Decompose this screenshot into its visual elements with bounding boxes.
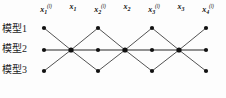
hat-accent: ˆ bbox=[124, 0, 126, 5]
node-mid-1[interactable] bbox=[42, 48, 46, 52]
node-top-1[interactable] bbox=[42, 26, 46, 30]
lattice-graph-svg bbox=[0, 0, 226, 98]
edge-top3-mid6 bbox=[152, 28, 179, 50]
col-label-x2-superscript: x2(l) bbox=[94, 2, 105, 17]
hat-accent: ˆ bbox=[70, 0, 72, 5]
col-label-sub: 1 bbox=[44, 9, 47, 15]
edge-mid6-top4 bbox=[179, 28, 206, 50]
edge-bottom3-mid6 bbox=[152, 50, 179, 71]
edge-top2-mid4 bbox=[98, 28, 125, 50]
col-label-base: ˆx bbox=[178, 2, 182, 11]
edge-top1-mid2 bbox=[44, 28, 71, 50]
node-top-4[interactable] bbox=[204, 26, 208, 30]
col-label-sub: 2 bbox=[98, 9, 101, 15]
node-bottom-2[interactable] bbox=[96, 69, 100, 73]
edge-mid2-bottom2 bbox=[71, 50, 98, 71]
col-label-sup: (l) bbox=[155, 3, 160, 9]
col-label-sub: 1 bbox=[74, 6, 77, 12]
col-label-sup: (l) bbox=[47, 3, 52, 9]
col-label-sub: 3 bbox=[182, 6, 185, 12]
col-label-base: ˆx bbox=[124, 2, 128, 11]
edge-mid6-bottom4 bbox=[179, 50, 206, 71]
node-mid-3[interactable] bbox=[96, 48, 100, 52]
node-mid-2[interactable] bbox=[68, 47, 73, 52]
edge-bottom2-mid4 bbox=[98, 50, 125, 71]
row-label-model-3: 模型3 bbox=[2, 65, 27, 75]
col-label-sub: 4 bbox=[206, 9, 209, 15]
node-bottom-3[interactable] bbox=[150, 69, 154, 73]
col-label-x3-superscript: x3(l) bbox=[148, 2, 159, 17]
col-label-sub: 3 bbox=[152, 9, 155, 15]
node-mid-4[interactable] bbox=[122, 47, 127, 52]
node-mid-6[interactable] bbox=[176, 47, 181, 52]
node-mid-5[interactable] bbox=[150, 48, 154, 52]
node-bottom-1[interactable] bbox=[42, 69, 46, 73]
col-label-base: x bbox=[202, 5, 206, 14]
node-mid-7[interactable] bbox=[204, 48, 208, 52]
col-label-x2-hat: ˆx2 bbox=[124, 2, 131, 14]
node-top-3[interactable] bbox=[150, 26, 154, 30]
row-label-model-1: 模型1 bbox=[2, 24, 27, 34]
node-bottom-4[interactable] bbox=[204, 69, 208, 73]
col-label-base: x bbox=[94, 5, 98, 14]
row-label-model-2: 模型2 bbox=[2, 44, 27, 54]
edge-mid4-bottom3 bbox=[125, 50, 152, 71]
col-label-x3-hat: ˆx3 bbox=[178, 2, 185, 14]
col-label-x1-hat: ˆx1 bbox=[70, 2, 77, 14]
col-label-base: x bbox=[40, 5, 44, 14]
edge-mid4-top3 bbox=[125, 28, 152, 50]
col-label-sup: (l) bbox=[101, 3, 106, 9]
edge-bottom1-mid2 bbox=[44, 50, 71, 71]
col-label-base: ˆx bbox=[70, 2, 74, 11]
lattice-diagram-figure: 模型1 模型2 模型3 x1(l) ˆx1 x2(l) ˆx2 x3(l) ˆx… bbox=[0, 0, 226, 98]
col-label-x1-superscript: x1(l) bbox=[40, 2, 51, 17]
col-label-x4-superscript: x4(l) bbox=[202, 2, 213, 17]
col-label-sub: 2 bbox=[128, 6, 131, 12]
node-top-2[interactable] bbox=[96, 26, 100, 30]
hat-accent: ˆ bbox=[178, 0, 180, 5]
edge-mid2-top2 bbox=[71, 28, 98, 50]
col-label-sup: (l) bbox=[209, 3, 214, 9]
col-label-base: x bbox=[148, 5, 152, 14]
